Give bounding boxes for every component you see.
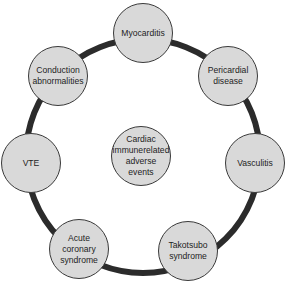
node-vte: VTE <box>1 133 61 193</box>
node-conduction-abnormalities: Conduction abnormalities <box>28 46 88 106</box>
node-label: VTE <box>23 158 40 169</box>
node-label: Myocarditis <box>121 28 164 39</box>
node-label: Vasculitis <box>237 158 273 169</box>
node-takotsubo-syndrome: Takotsubo syndrome <box>158 221 218 281</box>
node-label: Takotsubo syndrome <box>168 240 207 262</box>
node-label: Conduction abnormalities <box>32 65 83 87</box>
node-label: Acute coronary syndrome <box>60 233 98 266</box>
node-label: Pericardial disease <box>208 65 249 87</box>
node-acute-coronary-syndrome: Acute coronary syndrome <box>49 219 109 279</box>
node-pericardial-disease: Pericardial disease <box>198 46 258 106</box>
node-vasculitis: Vasculitis <box>225 133 285 193</box>
center-node-cardiac-irae: Cardiac immunerelated adverse events <box>111 126 171 186</box>
node-myocarditis: Myocarditis <box>113 3 173 63</box>
center-label: Cardiac immunerelated adverse events <box>113 134 170 178</box>
